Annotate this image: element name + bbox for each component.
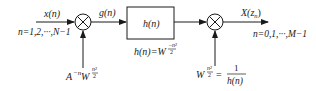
svg-text:2: 2 <box>208 72 211 78</box>
svg-text:2: 2 <box>170 49 173 55</box>
filter-block: h(n) h(n)=W −n² 2 <box>127 7 177 58</box>
svg-text:n²: n² <box>207 65 212 71</box>
svg-text:h(n): h(n) <box>227 76 243 87</box>
multiplier-1: A −n W n² 2 <box>65 14 98 82</box>
output-signal-label: X(zn) <box>240 7 261 19</box>
output-signal: X(zn) n=0,1,···,M−1 <box>223 7 307 39</box>
svg-text:=: = <box>216 69 222 80</box>
svg-text:W: W <box>81 71 91 82</box>
svg-text:2: 2 <box>93 73 96 79</box>
input-signal: x(n) n=1,2,···,N−1 <box>18 8 74 37</box>
svg-text:W: W <box>196 69 206 80</box>
g-signal-label: g(n) <box>99 7 116 19</box>
input-signal-label: x(n) <box>43 8 61 20</box>
multiplier-2: W n² 2 = 1 h(n) <box>196 14 246 87</box>
output-range-label: n=0,1,···,M−1 <box>253 29 307 39</box>
svg-text:−n²: −n² <box>168 42 177 48</box>
chirp-z-block-diagram: x(n) n=1,2,···,N−1 A −n W n² 2 g(n) h(n)… <box>0 0 316 91</box>
weight1-label: A −n W n² 2 <box>65 66 98 82</box>
weight2-label: W n² 2 = 1 h(n) <box>196 63 246 87</box>
svg-text:h(n)=W: h(n)=W <box>134 46 167 58</box>
svg-text:A: A <box>65 71 73 82</box>
svg-text:1: 1 <box>234 63 239 73</box>
filter-definition: h(n)=W −n² 2 <box>134 42 177 58</box>
input-range-label: n=1,2,···,N−1 <box>18 27 70 37</box>
svg-text:n²: n² <box>92 66 97 72</box>
filter-box-label: h(n) <box>143 18 160 30</box>
intermediate-signal: g(n) <box>91 7 126 22</box>
